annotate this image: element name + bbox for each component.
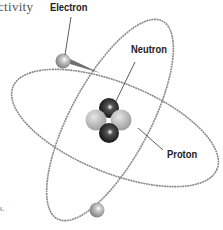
neutron-sphere-bottom <box>99 123 119 143</box>
electron-bottom <box>90 203 105 218</box>
nucleus <box>86 98 132 143</box>
atom-diagram <box>0 0 223 230</box>
electron-top <box>56 54 71 69</box>
electron-leader-line <box>65 17 71 55</box>
proton-label: Proton <box>167 148 197 160</box>
electron-label: Electron <box>50 1 87 13</box>
neutron-label: Neutron <box>131 43 167 55</box>
